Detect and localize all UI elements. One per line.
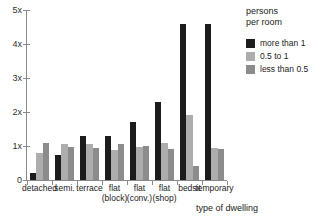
bar [143, 146, 149, 180]
x-axis-label-line-2: (shop) [138, 193, 191, 203]
bar [155, 102, 161, 180]
y-tick-label: 2x [12, 108, 22, 117]
y-tick-label: 4x [12, 40, 22, 49]
bar [161, 143, 167, 180]
bar [130, 122, 136, 180]
bar [186, 115, 192, 180]
legend-item: less than 0.5 [246, 63, 325, 76]
legend-title-line-1: persons [246, 6, 325, 17]
bar [168, 149, 174, 180]
legend-label: less than 0.5 [260, 65, 308, 74]
legend-swatch-icon [246, 52, 255, 61]
legend-swatch-icon [246, 39, 255, 48]
y-tick-label: 1x [12, 142, 22, 151]
bar [118, 144, 124, 180]
bar [105, 136, 111, 180]
x-axis-label: temporary [188, 183, 241, 193]
bar [93, 148, 99, 180]
x-axis-label-line-1: temporary [195, 183, 233, 193]
bar [136, 147, 142, 180]
legend-item: more than 1 [246, 37, 325, 50]
bar [80, 136, 86, 180]
bar [30, 173, 36, 180]
bar [218, 149, 224, 180]
y-tick-label: 3x [12, 74, 22, 83]
bar [211, 148, 217, 180]
plot-area: 01x2x3x4x5x [26, 10, 227, 181]
bar [111, 150, 117, 180]
legend-title-line-2: per room [246, 17, 325, 28]
legend-label: more than 1 [260, 39, 305, 48]
legend-item: 0.5 to 1 [246, 50, 325, 63]
bar [61, 144, 67, 180]
bar [180, 24, 186, 180]
legend: persons per room more than 10.5 to 1less… [246, 6, 325, 76]
bar [43, 143, 49, 180]
bars-layer [27, 10, 227, 180]
legend-swatch-icon [246, 65, 255, 74]
bar [55, 155, 61, 181]
legend-label: 0.5 to 1 [260, 52, 288, 61]
bar [36, 153, 42, 180]
bar [193, 166, 199, 180]
legend-items: more than 10.5 to 1less than 0.5 [246, 37, 325, 76]
bar [68, 147, 74, 180]
bar [86, 144, 92, 180]
y-tick-label: 5x [12, 6, 22, 15]
x-axis-title: type of dwelling [196, 203, 258, 214]
bar-chart: 01x2x3x4x5x detachedsemi.terraceflat(blo… [0, 0, 325, 217]
bar [205, 24, 211, 180]
